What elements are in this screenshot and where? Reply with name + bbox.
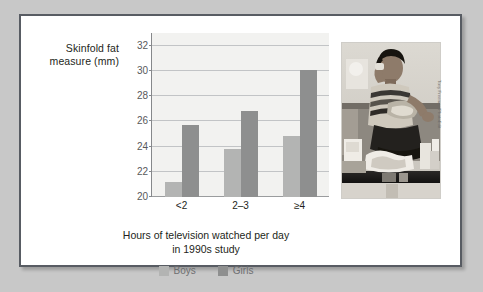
bars-layer: <22–3≥4 bbox=[152, 33, 329, 197]
photo-image bbox=[341, 42, 441, 199]
legend-label: Girls bbox=[233, 265, 254, 276]
bar-girls-3 bbox=[300, 70, 317, 197]
x-axis-title-line2: in 1990s study bbox=[81, 243, 331, 257]
legend-swatch-girls bbox=[218, 266, 228, 276]
bar-chart: Skinfold fat measure (mm) 20222426283032… bbox=[21, 16, 341, 265]
x-axis-tick-label: <2 bbox=[176, 200, 187, 211]
bar-group: ≥4 bbox=[270, 33, 329, 197]
bar-boys-2 bbox=[224, 149, 241, 197]
plot-inner: 20222426283032 <22–3≥4 bbox=[151, 33, 329, 197]
bar-group: <2 bbox=[152, 33, 211, 197]
legend-swatch-boys bbox=[159, 266, 169, 276]
x-axis-tick-label: 2–3 bbox=[232, 200, 249, 211]
bar-boys-1 bbox=[165, 182, 182, 197]
figure-card: Skinfold fat measure (mm) 20222426283032… bbox=[19, 14, 462, 267]
photo-block: Tony Freeman/PhotoEdit bbox=[341, 42, 446, 202]
x-axis-tick-label: ≥4 bbox=[294, 200, 305, 211]
x-axis-title-line1: Hours of television watched per day bbox=[81, 229, 331, 243]
plot-area: 20222426283032 <22–3≥4 bbox=[133, 33, 329, 213]
y-axis-title-line1: Skinfold fat bbox=[27, 42, 119, 55]
y-axis-title: Skinfold fat measure (mm) bbox=[27, 42, 119, 68]
bar-girls-1 bbox=[182, 125, 199, 197]
bar-boys-3 bbox=[283, 136, 300, 197]
chart-legend: BoysGirls bbox=[81, 265, 331, 276]
figure-root: Skinfold fat measure (mm) 20222426283032… bbox=[0, 0, 483, 292]
legend-label: Boys bbox=[174, 265, 196, 276]
photo-credit: Tony Freeman/PhotoEdit bbox=[437, 80, 442, 180]
photo-illustration bbox=[342, 43, 441, 199]
bar-girls-2 bbox=[241, 111, 258, 197]
legend-item-girls: Girls bbox=[218, 265, 254, 276]
x-axis-title: Hours of television watched per day in 1… bbox=[81, 229, 331, 256]
legend-item-boys: Boys bbox=[159, 265, 196, 276]
bar-group: 2–3 bbox=[211, 33, 270, 197]
y-axis-title-line2: measure (mm) bbox=[27, 55, 119, 68]
